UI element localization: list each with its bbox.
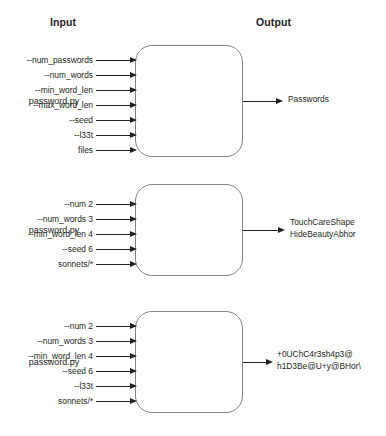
column-header-input: Input	[50, 16, 76, 28]
input-label: --num_passwords	[26, 54, 93, 66]
process-box-1	[135, 45, 243, 157]
pipeline-stage-1: password.py --num_passwords --num_words …	[0, 45, 386, 157]
input-label: --seed	[69, 114, 93, 126]
input-label: --num 2	[64, 320, 93, 332]
input-arrow-icon	[96, 203, 137, 205]
input-label: --max_word_len	[33, 99, 93, 111]
output-arrow-icon	[243, 229, 285, 231]
input-arrow-icon	[96, 59, 137, 61]
input-row: --num_words 3	[0, 335, 137, 347]
input-row: files	[0, 144, 137, 156]
input-label: --seed 6	[62, 243, 93, 255]
input-label: --num_words	[44, 69, 93, 81]
input-row: --num 2	[0, 198, 137, 210]
input-arrow-icon	[96, 218, 137, 220]
input-row: --num_words 3	[0, 213, 137, 225]
input-row: --min_word_len	[0, 84, 137, 96]
input-row: --max_word_len	[0, 99, 137, 111]
output-label-3: +0UChC4r3sh4p3@ h1D3Be@U+y@BHor\	[277, 349, 361, 372]
input-row: sonnets/*	[0, 258, 137, 270]
process-box-2	[135, 184, 243, 276]
input-arrow-icon	[96, 89, 137, 91]
input-row: --num_words	[0, 69, 137, 81]
input-row: --num 2	[0, 320, 137, 332]
input-label: --num_words 3	[37, 213, 93, 225]
input-arrow-icon	[96, 74, 137, 76]
pipeline-stage-3: password.py --num 2 --num_words 3 --min_…	[0, 311, 386, 415]
output-label-2: TouchCareShape HideBeautyAbhor	[290, 217, 356, 240]
output-label-1: Passwords	[288, 94, 329, 106]
input-label: sonnets/*	[58, 258, 93, 270]
input-arrow-icon	[96, 385, 137, 387]
input-row: --min_word_len 4	[0, 350, 137, 362]
input-arrow-icon	[96, 370, 137, 372]
input-label: --min_word_len	[35, 84, 93, 96]
input-arrow-icon	[96, 263, 137, 265]
input-arrow-icon	[96, 248, 137, 250]
input-row: --l33t	[0, 380, 137, 392]
input-arrow-icon	[96, 340, 137, 342]
output-line: HideBeautyAbhor	[290, 229, 356, 241]
diagram-canvas: Input Output password.py --num_passwords…	[0, 0, 386, 436]
input-arrow-icon	[96, 149, 137, 151]
output-arrow-icon	[243, 100, 283, 102]
input-label: sonnets/*	[58, 395, 93, 407]
output-line: TouchCareShape	[290, 217, 356, 229]
input-row: sonnets/*	[0, 395, 137, 407]
input-arrow-icon	[96, 104, 137, 106]
input-arrow-icon	[96, 233, 137, 235]
input-row: --min_word_len 4	[0, 228, 137, 240]
input-arrow-icon	[96, 325, 137, 327]
input-row: --l33t	[0, 129, 137, 141]
output-line: +0UChC4r3sh4p3@	[277, 349, 361, 361]
column-header-output: Output	[256, 16, 291, 28]
input-label: --seed 6	[62, 365, 93, 377]
input-label: --l33t	[74, 380, 93, 392]
process-box-3	[135, 311, 243, 413]
input-arrow-icon	[96, 119, 137, 121]
output-line: Passwords	[288, 94, 329, 106]
input-row: --seed	[0, 114, 137, 126]
input-row: --seed 6	[0, 365, 137, 377]
output-arrow-icon	[243, 361, 273, 363]
input-label: --min_word_len 4	[28, 228, 93, 240]
input-label: --num_words 3	[37, 335, 93, 347]
input-arrow-icon	[96, 400, 137, 402]
input-arrow-icon	[96, 355, 137, 357]
input-label: --l33t	[74, 129, 93, 141]
input-row: --seed 6	[0, 243, 137, 255]
input-label: --min_word_len 4	[28, 350, 93, 362]
input-arrow-icon	[96, 134, 137, 136]
output-line: h1D3Be@U+y@BHor\	[277, 361, 361, 373]
input-row: --num_passwords	[0, 54, 137, 66]
input-label: files	[78, 144, 93, 156]
input-label: --num 2	[64, 198, 93, 210]
pipeline-stage-2: password.py --num 2 --num_words 3 --min_…	[0, 184, 386, 278]
